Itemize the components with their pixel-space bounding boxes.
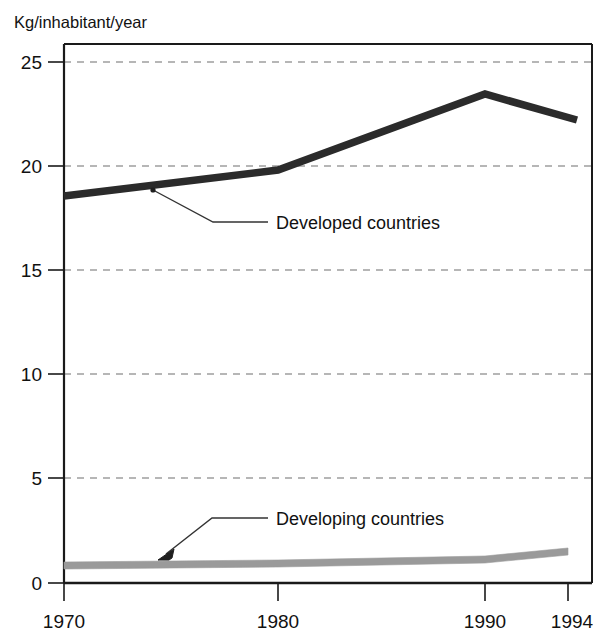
y-tick-label-20: 20 (21, 156, 42, 177)
line-chart: Kg/inhabitant/year 25 20 15 10 5 0 1970 … (0, 0, 613, 642)
annotation-label-developed: Developed countries (276, 213, 440, 233)
y-tick-label-0: 0 (31, 573, 42, 594)
chart-container: Kg/inhabitant/year 25 20 15 10 5 0 1970 … (0, 0, 613, 642)
y-tick-label-15: 15 (21, 260, 42, 281)
x-tick-label-1980: 1980 (257, 611, 299, 632)
annotation-label-developing: Developing countries (276, 509, 444, 529)
developed-leader-dot (150, 187, 155, 192)
x-axis-ticks (64, 583, 568, 601)
y-axis-caption: Kg/inhabitant/year (14, 13, 148, 31)
plot-area-background (64, 44, 592, 583)
y-tick-label-25: 25 (21, 52, 42, 73)
x-tick-label-1970: 1970 (43, 611, 85, 632)
x-tick-label-1990: 1990 (464, 611, 506, 632)
x-tick-label-1994: 1994 (551, 611, 594, 632)
y-tick-label-5: 5 (31, 468, 42, 489)
y-tick-label-10: 10 (21, 364, 42, 385)
y-axis-ticks (48, 62, 64, 583)
